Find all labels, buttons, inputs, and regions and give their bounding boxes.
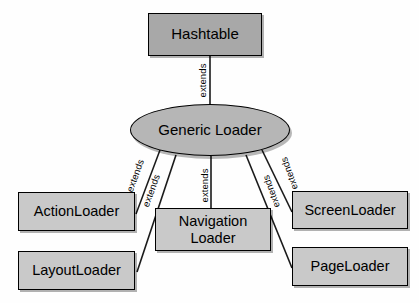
class-node-actionloader[interactable]: ActionLoader xyxy=(18,192,135,231)
class-node-label: ScreenLoader xyxy=(301,202,398,218)
class-node-label: ActionLoader xyxy=(31,203,122,219)
edge-label-navigationloader: extends xyxy=(199,169,210,203)
class-node-label: Generic Loader xyxy=(155,122,264,139)
class-node-label: LayoutLoader xyxy=(29,262,124,278)
class-diagram: Hashtable Generic Loader ActionLoader La… xyxy=(0,0,419,303)
class-node-pageloader[interactable]: PageLoader xyxy=(292,247,408,286)
class-node-label: Navigation Loader xyxy=(176,213,251,245)
class-node-navigationloader[interactable]: Navigation Loader xyxy=(155,208,271,251)
class-node-hashtable[interactable]: Hashtable xyxy=(148,13,262,56)
class-node-generic-loader[interactable]: Generic Loader xyxy=(130,104,290,156)
class-node-label: Hashtable xyxy=(168,26,242,43)
class-node-screenloader[interactable]: ScreenLoader xyxy=(292,191,408,229)
edge-label-hashtable: extends xyxy=(197,64,208,98)
class-node-label: PageLoader xyxy=(307,258,392,274)
class-node-layoutloader[interactable]: LayoutLoader xyxy=(18,251,135,290)
